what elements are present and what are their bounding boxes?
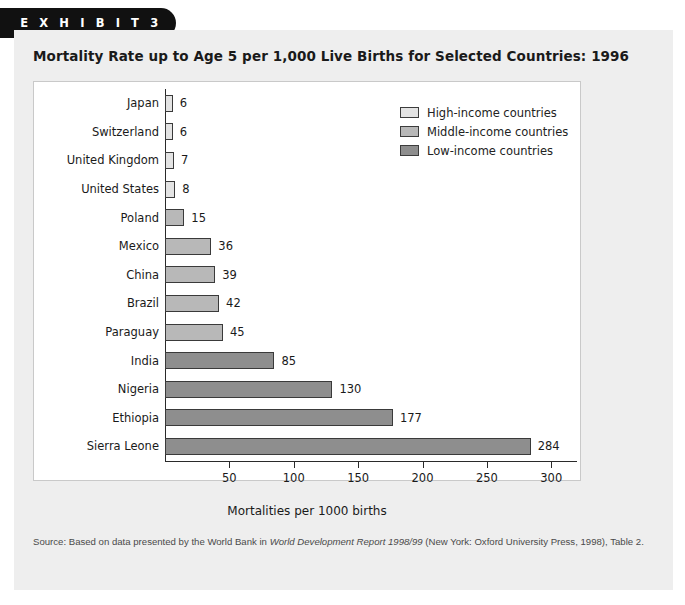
bar-category-label: Poland — [34, 211, 159, 225]
bar-row: United Kingdom7 — [34, 146, 580, 175]
bar-value-label: 130 — [339, 382, 361, 396]
bar — [165, 209, 184, 226]
bar-row: Mexico36 — [34, 232, 580, 261]
bar-row: Switzerland6 — [34, 118, 580, 147]
bar-row: Paraguay45 — [34, 318, 580, 347]
bar-value-label: 284 — [538, 439, 560, 453]
bar — [165, 324, 223, 341]
bar-category-label: Brazil — [34, 296, 159, 310]
bar-series: Japan6Switzerland6United Kingdom7United … — [34, 89, 580, 461]
bar-category-label: Nigeria — [34, 382, 159, 396]
exhibit-panel: Mortality Rate up to Age 5 per 1,000 Liv… — [14, 30, 673, 590]
source-prefix: Source: Based on data presented by the W… — [33, 536, 270, 547]
x-tick-label: 200 — [412, 471, 434, 485]
bar-row: Nigeria130 — [34, 375, 580, 404]
source-note: Source: Based on data presented by the W… — [33, 535, 653, 548]
bar-category-label: China — [34, 268, 159, 282]
x-tick-mark — [294, 462, 295, 468]
x-tick-mark — [551, 462, 552, 468]
bar-row: China39 — [34, 261, 580, 290]
chart-body: High-income countriesMiddle-income count… — [34, 82, 580, 480]
bar-value-label: 8 — [182, 182, 189, 196]
bar-value-label: 45 — [230, 325, 245, 339]
bar — [165, 123, 173, 140]
chart-title: Mortality Rate up to Age 5 per 1,000 Liv… — [33, 48, 629, 64]
bar-value-label: 42 — [226, 296, 241, 310]
bar-category-label: Paraguay — [34, 325, 159, 339]
bar-category-label: Mexico — [34, 239, 159, 253]
bar — [165, 352, 274, 369]
bar-row: India85 — [34, 346, 580, 375]
bar — [165, 295, 219, 312]
plot-area: High-income countriesMiddle-income count… — [33, 81, 581, 481]
bar-category-label: Sierra Leone — [34, 439, 159, 453]
bar — [165, 95, 173, 112]
x-tick-label: 300 — [540, 471, 562, 485]
bar-row: Poland15 — [34, 203, 580, 232]
bar-category-label: Ethiopia — [34, 411, 159, 425]
bar — [165, 438, 531, 455]
bar-value-label: 7 — [181, 153, 188, 167]
x-tick-label: 250 — [476, 471, 498, 485]
bar — [165, 152, 174, 169]
x-tick-mark — [358, 462, 359, 468]
bar-row: Japan6 — [34, 89, 580, 118]
bar-category-label: India — [34, 354, 159, 368]
x-tick-mark — [229, 462, 230, 468]
bar-value-label: 177 — [400, 411, 422, 425]
bar-row: Sierra Leone284 — [34, 432, 580, 461]
x-tick-label: 50 — [222, 471, 237, 485]
bar-value-label: 85 — [281, 354, 296, 368]
exhibit-container: E X H I B I T 3 Mortality Rate up to Age… — [0, 0, 685, 605]
bar-value-label: 36 — [218, 239, 233, 253]
x-axis-ticks: 50100150200250300 — [34, 462, 580, 482]
bar-value-label: 15 — [191, 211, 206, 225]
bar-row: United States8 — [34, 175, 580, 204]
bar — [165, 409, 393, 426]
exhibit-panel-inner: Mortality Rate up to Age 5 per 1,000 Liv… — [14, 30, 673, 590]
x-tick-mark — [487, 462, 488, 468]
bar-row: Ethiopia177 — [34, 404, 580, 433]
x-tick-mark — [423, 462, 424, 468]
x-tick-label: 150 — [347, 471, 369, 485]
bar-category-label: United Kingdom — [34, 153, 159, 167]
bar-value-label: 39 — [222, 268, 237, 282]
bar-category-label: Switzerland — [34, 125, 159, 139]
bar — [165, 181, 175, 198]
bar-row: Brazil42 — [34, 289, 580, 318]
bar — [165, 381, 332, 398]
x-axis-title: Mortalities per 1000 births — [33, 504, 581, 518]
source-italic-title: World Development Report 1998/99 — [270, 536, 423, 547]
x-tick-label: 100 — [283, 471, 305, 485]
bar — [165, 266, 215, 283]
bar-category-label: United States — [34, 182, 159, 196]
source-suffix: (New York: Oxford University Press, 1998… — [423, 536, 644, 547]
bar-category-label: Japan — [34, 96, 159, 110]
bar-value-label: 6 — [180, 125, 187, 139]
bar-value-label: 6 — [180, 96, 187, 110]
bar — [165, 238, 211, 255]
